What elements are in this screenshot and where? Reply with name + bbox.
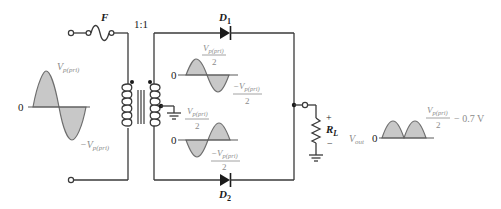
vout-label: Vout [349, 133, 365, 146]
load-minus-sign: − [327, 138, 333, 149]
output-peak-label: Vp(pri) 2 − 0.7 V [426, 105, 485, 130]
svg-text:2: 2 [436, 120, 441, 130]
input-terminal-bottom [68, 177, 73, 182]
load-label: RL [325, 123, 338, 138]
svg-text:−Vp(pri): −Vp(pri) [233, 81, 260, 93]
input-terminal-top [68, 30, 73, 35]
input-peak-neg-label: −Vp(pri) [80, 139, 110, 152]
svg-text:Vp(pri): Vp(pri) [427, 105, 448, 117]
fuse-icon [86, 25, 114, 40]
diode-d1-label: D1 [218, 11, 231, 26]
transformer-ratio: 1:1 [134, 18, 148, 30]
svg-text:Vp(pri): Vp(pri) [187, 106, 208, 118]
rectifier-circuit-diagram: F 1:1 D1 [0, 0, 501, 209]
center-tap-ground-icon [159, 104, 181, 119]
diode-d2-icon [220, 173, 231, 187]
upper-secondary-waveform [178, 59, 238, 92]
svg-text:2: 2 [245, 96, 250, 106]
svg-text:− 0.7 V: − 0.7 V [454, 113, 485, 124]
svg-text:2: 2 [222, 162, 227, 172]
lower-peak-pos-fraction: Vp(pri) 2 [185, 106, 209, 131]
load-plus-sign: + [326, 112, 332, 123]
fuse-label: F [100, 11, 109, 23]
input-peak-pos-label: Vp(pri) [57, 61, 80, 74]
svg-text:Vp(pri): Vp(pri) [203, 43, 224, 55]
input-waveform [28, 71, 90, 140]
load-resistor-icon [309, 105, 323, 161]
output-node [292, 102, 316, 107]
input-zero-label: 0 [18, 101, 24, 113]
output-zero-label: 0 [372, 132, 378, 144]
upper-peak-neg-fraction: −Vp(pri) 2 [233, 81, 262, 106]
upper-zero-label: 0 [171, 69, 177, 81]
transformer-icon [122, 80, 160, 126]
upper-peak-pos-fraction: Vp(pri) 2 [202, 43, 226, 67]
svg-text:2: 2 [195, 121, 200, 131]
diode-d2-label: D2 [218, 188, 231, 203]
lower-peak-neg-fraction: −Vp(pri) 2 [211, 148, 240, 172]
svg-text:−Vp(pri): −Vp(pri) [211, 148, 238, 160]
lower-zero-label: 0 [171, 134, 177, 146]
svg-text:2: 2 [212, 57, 217, 67]
diode-d1-icon [220, 26, 231, 40]
output-waveform [379, 121, 434, 138]
